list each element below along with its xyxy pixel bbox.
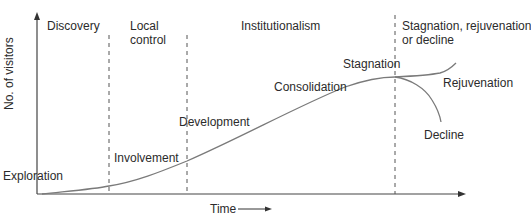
x-axis-label: Time [210, 202, 236, 216]
life-cycle-curve [42, 77, 395, 194]
stage-label-rejuvenation: Rejuvenation [443, 76, 513, 90]
era-label-discovery: Discovery [47, 19, 100, 33]
x-axis-arrow-icon [458, 191, 466, 197]
y-axis-arrow-icon [34, 12, 40, 20]
y-axis-label: No. of visitors [2, 37, 16, 110]
rejuvenation-curve [395, 63, 456, 77]
stage-label-exploration: Exploration [3, 169, 63, 183]
decline-curve [395, 77, 441, 122]
stage-label-consolidation: Consolidation [274, 80, 347, 94]
era-label-local-control-line2: control [130, 33, 166, 47]
stage-label-decline: Decline [424, 128, 464, 142]
stage-label-development: Development [179, 115, 250, 129]
stage-label-stagnation: Stagnation [343, 57, 400, 71]
stage-label-involvement: Involvement [114, 151, 179, 165]
era-label-local-control-line1: Local [130, 19, 159, 33]
era-label-institutionalism: Institutionalism [241, 19, 320, 33]
time-arrow-icon [265, 207, 272, 212]
era-label-stagnation-line1: Stagnation, rejuvenation [402, 19, 531, 33]
era-label-stagnation-line2: or decline [402, 33, 454, 47]
